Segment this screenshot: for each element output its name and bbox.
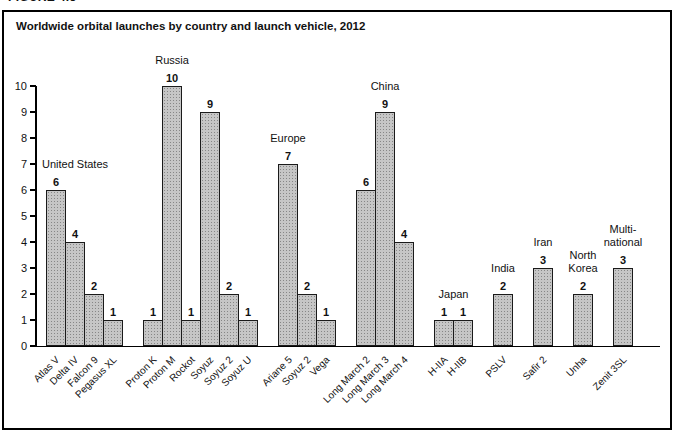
bar-vega <box>316 320 336 346</box>
bar-long-march-4 <box>394 242 414 346</box>
bar-value-label: 2 <box>493 280 513 292</box>
bar-h-iia <box>434 320 454 346</box>
bar-value-label: 10 <box>162 72 182 84</box>
x-axis-label-text: PSLV <box>483 354 508 379</box>
bar-value-label: 1 <box>103 306 123 318</box>
bar-value-label: 4 <box>394 228 414 240</box>
y-tick <box>30 345 36 347</box>
bar-value-label: 1 <box>316 306 336 318</box>
bar-value-label: 2 <box>219 280 239 292</box>
country-label: China <box>371 80 400 93</box>
y-tick <box>30 189 36 191</box>
country-label: North Korea <box>568 249 597 274</box>
bar-value-label: 1 <box>453 306 473 318</box>
country-label: United States <box>42 158 108 171</box>
bar-soyuz-2 <box>297 294 317 346</box>
y-tick-label: 3 <box>6 262 27 275</box>
bar-h-iib <box>453 320 473 346</box>
country-label: Japan <box>439 288 469 301</box>
bar-value-label: 2 <box>573 280 593 292</box>
bar-ariane-5 <box>278 164 298 346</box>
y-tick <box>30 267 36 269</box>
y-tick-label: 8 <box>6 132 27 145</box>
plot-area: 0123456789106421United States1101921Russ… <box>4 12 670 346</box>
country-label: Multi- national <box>604 223 643 248</box>
x-axis <box>35 346 660 348</box>
y-tick <box>30 85 36 87</box>
bar-soyuz-u <box>238 320 258 346</box>
bar-long-march-3 <box>375 112 395 346</box>
x-axis-label-text: H-IIB <box>445 354 469 378</box>
bar-value-label: 3 <box>533 254 553 266</box>
y-tick-label: 0 <box>6 340 27 353</box>
bar-soyuz-2 <box>219 294 239 346</box>
y-tick <box>30 137 36 139</box>
bar-zenit-3sl <box>613 268 633 346</box>
x-axis-label-text: Zenit 3SL <box>591 354 629 392</box>
y-tick-label: 1 <box>6 314 27 327</box>
bar-unha <box>573 294 593 346</box>
y-tick-label: 10 <box>6 80 27 93</box>
bar-value-label: 2 <box>297 280 317 292</box>
bar-value-label: 9 <box>375 98 395 110</box>
y-tick-label: 2 <box>6 288 27 301</box>
y-tick <box>30 319 36 321</box>
country-label: Iran <box>534 236 553 249</box>
y-tick <box>30 241 36 243</box>
bar-pslv <box>493 294 513 346</box>
bar-value-label: 1 <box>181 306 201 318</box>
bar-proton-m <box>162 86 182 346</box>
country-label: Russia <box>155 54 189 67</box>
x-axis-label-text: H-IIA <box>426 354 450 378</box>
bar-value-label: 4 <box>65 228 85 240</box>
bar-value-label: 1 <box>143 306 163 318</box>
x-axis-label-text: Unha <box>564 354 589 379</box>
y-tick <box>30 163 36 165</box>
y-tick-label: 5 <box>6 210 27 223</box>
country-label: Europe <box>270 132 305 145</box>
figure-number-label-cropped: FIGURE 4.5 <box>8 0 76 5</box>
bar-value-label: 6 <box>356 176 376 188</box>
y-tick-label: 9 <box>6 106 27 119</box>
y-tick <box>30 293 36 295</box>
bar-soyuz <box>200 112 220 346</box>
bar-atlas-v <box>46 190 66 346</box>
y-tick <box>30 111 36 113</box>
bar-rockot <box>181 320 201 346</box>
y-tick <box>30 215 36 217</box>
y-tick-label: 6 <box>6 184 27 197</box>
bar-pegasus-xl <box>103 320 123 346</box>
bar-delta-iv <box>65 242 85 346</box>
bar-value-label: 1 <box>238 306 258 318</box>
figure-number-text: FIGURE 4.5 <box>8 0 76 4</box>
bar-safir-2 <box>533 268 553 346</box>
bar-value-label: 7 <box>278 150 298 162</box>
bar-value-label: 2 <box>84 280 104 292</box>
bar-value-label: 1 <box>434 306 454 318</box>
bar-proton-k <box>143 320 163 346</box>
x-axis-labels: Atlas VDelta IVFalcon 9Pegasus XLProton … <box>4 352 670 412</box>
bar-value-label: 9 <box>200 98 220 110</box>
bar-value-label: 3 <box>613 254 633 266</box>
bar-long-march-2 <box>356 190 376 346</box>
bar-falcon-9 <box>84 294 104 346</box>
x-axis-label-text: Vega <box>308 354 332 378</box>
y-tick-label: 7 <box>6 158 27 171</box>
country-label: India <box>491 262 515 275</box>
bar-value-label: 6 <box>46 176 66 188</box>
y-tick-label: 4 <box>6 236 27 249</box>
x-axis-label-text: Safir 2 <box>521 354 549 382</box>
figure-box: Worldwide orbital launches by country an… <box>2 10 672 430</box>
